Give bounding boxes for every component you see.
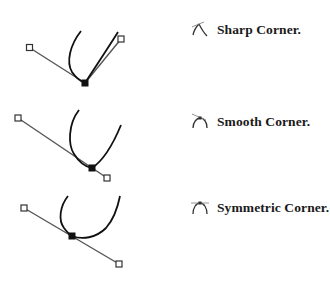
handle-point-right[interactable] xyxy=(104,175,110,181)
smooth-corner-icon xyxy=(189,113,211,131)
handle-point-right[interactable] xyxy=(116,261,122,267)
corner-types-diagram xyxy=(0,0,330,284)
legend-smooth-corner: Smooth Corner. xyxy=(189,113,310,131)
sharp-corner-icon xyxy=(189,21,211,39)
legend-symmetric-corner: Symmetric Corner. xyxy=(189,199,329,217)
sharp-corner-example xyxy=(27,31,125,87)
legend-sharp-corner: Sharp Corner. xyxy=(189,21,301,39)
curve-segment xyxy=(61,196,120,238)
curve-segment xyxy=(70,110,121,168)
anchor-point[interactable] xyxy=(69,233,76,240)
symmetric-corner-example xyxy=(21,196,122,267)
handle-point-left[interactable] xyxy=(15,115,21,121)
handle-point-left[interactable] xyxy=(27,45,33,51)
curve-segment-right xyxy=(85,32,118,83)
symmetric-corner-label: Symmetric Corner. xyxy=(217,200,329,216)
handle-line-right xyxy=(85,39,121,83)
anchor-point[interactable] xyxy=(82,80,89,87)
sharp-corner-label: Sharp Corner. xyxy=(217,22,301,38)
handle-point-left[interactable] xyxy=(21,205,27,211)
anchor-point[interactable] xyxy=(89,165,96,172)
symmetric-corner-icon xyxy=(189,199,211,217)
smooth-corner-example xyxy=(15,110,121,181)
smooth-corner-label: Smooth Corner. xyxy=(217,114,310,130)
handle-point-right[interactable] xyxy=(118,36,124,42)
